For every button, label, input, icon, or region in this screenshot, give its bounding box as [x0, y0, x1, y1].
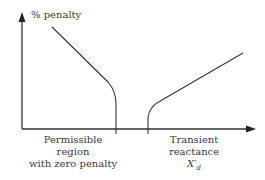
x-axis-arrow-icon — [246, 126, 256, 133]
region-label-line3: with zero penalty — [28, 158, 118, 170]
region-label-line1: Permissible — [28, 134, 118, 146]
x-axis-label-line2: reactance — [160, 146, 228, 158]
region-label-line2: region — [28, 146, 118, 158]
permissible-region-label: Permissible region with zero penalty — [28, 134, 118, 170]
y-axis-label: % penalty — [31, 9, 81, 21]
left-penalty-curve — [52, 27, 116, 134]
right-penalty-curve — [148, 53, 243, 134]
transient-reactance-symbol: X′d — [160, 158, 228, 174]
x-axis-label-line1: Transient — [160, 134, 228, 146]
y-axis-arrow-icon — [19, 12, 26, 22]
x-axis-label: Transient reactance X′d — [160, 134, 228, 174]
symbol-subscript: d — [196, 164, 200, 172]
